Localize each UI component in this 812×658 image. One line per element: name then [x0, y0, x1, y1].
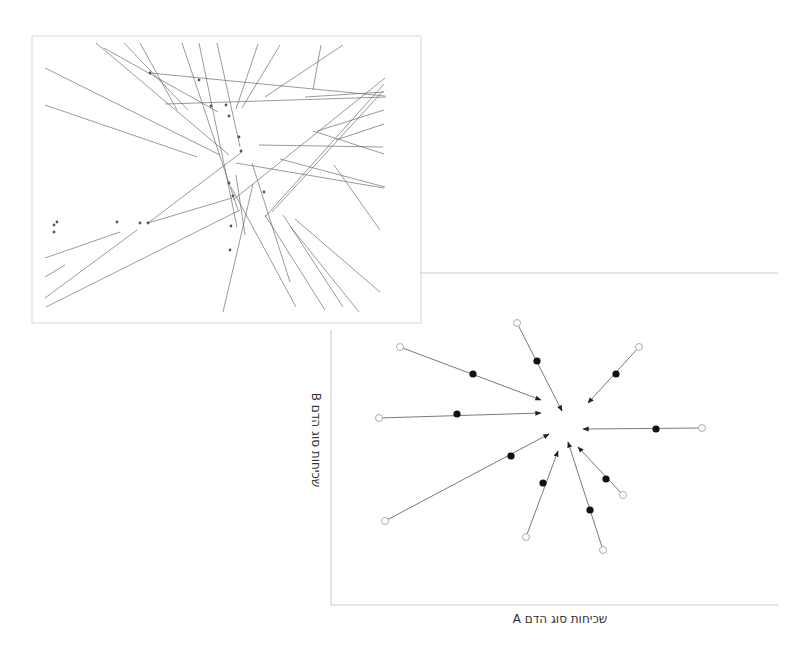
- network-node: [210, 105, 213, 108]
- trajectory-arrow: [517, 323, 562, 411]
- trajectory: [568, 442, 607, 554]
- filled-circle-marker: [586, 506, 593, 513]
- filled-circle-marker: [469, 370, 476, 377]
- network-diagram-panel: [32, 36, 421, 323]
- filled-circle-marker: [612, 370, 619, 377]
- network-node: [53, 224, 56, 227]
- network-node: [56, 221, 59, 224]
- trajectory: [578, 447, 627, 499]
- open-circle-marker: [636, 344, 643, 351]
- network-node: [147, 222, 150, 225]
- panel-border: [32, 36, 421, 323]
- trajectory: [583, 425, 706, 433]
- open-circle-marker: [376, 415, 383, 422]
- open-circle-marker: [523, 534, 530, 541]
- trajectory-arrow: [578, 447, 623, 495]
- network-node: [238, 136, 241, 139]
- network-node: [149, 72, 152, 75]
- trajectory-plot: [376, 320, 706, 554]
- x-axis-label: שכיחות סוג הדם A: [470, 612, 650, 626]
- figure-canvas: [0, 0, 812, 658]
- trajectory-arrow: [568, 442, 603, 550]
- network-node: [225, 104, 228, 107]
- filled-circle-marker: [539, 479, 546, 486]
- open-circle-marker: [600, 547, 607, 554]
- trajectory: [514, 320, 563, 412]
- trajectory: [588, 344, 643, 404]
- network-node: [53, 231, 56, 234]
- network-node: [139, 222, 142, 225]
- filled-circle-marker: [453, 410, 460, 417]
- open-circle-marker: [382, 518, 389, 525]
- filled-circle-marker: [652, 425, 659, 432]
- filled-circle-marker: [533, 357, 540, 364]
- network-node: [240, 150, 243, 153]
- trajectory-arrow: [385, 434, 549, 521]
- trajectory: [397, 344, 542, 401]
- y-axis-label: שכיחות סוג הדם B: [309, 370, 323, 510]
- filled-circle-marker: [507, 452, 514, 459]
- open-circle-marker: [397, 344, 404, 351]
- trajectory: [523, 451, 559, 541]
- filled-circle-marker: [602, 475, 609, 482]
- trajectory: [382, 434, 550, 525]
- network-node: [263, 191, 266, 194]
- trajectory: [376, 410, 542, 421]
- network-node: [229, 249, 232, 252]
- network-node: [230, 225, 233, 228]
- network-node: [116, 221, 119, 224]
- open-circle-marker: [699, 425, 706, 432]
- network-node: [198, 79, 201, 82]
- network-node: [228, 182, 231, 185]
- trajectory-arrow: [583, 428, 702, 429]
- open-circle-marker: [620, 492, 627, 499]
- network-node: [232, 195, 235, 198]
- open-circle-marker: [514, 320, 521, 327]
- network-node: [228, 115, 231, 118]
- trajectory-arrow: [526, 451, 558, 537]
